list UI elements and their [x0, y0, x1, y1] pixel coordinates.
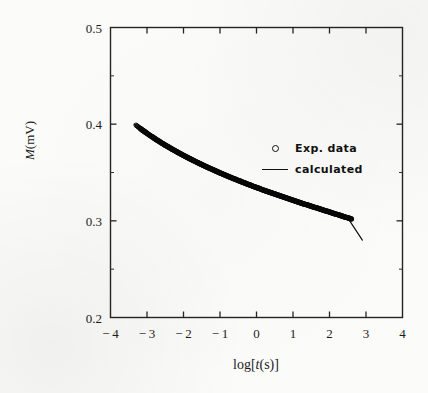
y-axis-label-symbol: M: [22, 149, 37, 160]
open-circle-marker-icon: [258, 145, 292, 152]
x-tick-label: − 4: [102, 327, 118, 340]
x-tick-label: − 1: [212, 327, 228, 340]
x-tick-label: − 3: [139, 327, 155, 340]
y-tick-label: 0.5: [68, 21, 102, 34]
x-tick-label: 4: [399, 327, 406, 340]
legend-item-calculated: calculated: [258, 159, 363, 180]
legend-label-exp-data: Exp. data: [292, 142, 357, 155]
y-tick-label: 0.2: [68, 311, 102, 324]
x-tick-label: − 2: [175, 327, 191, 340]
plot-legend: Exp. data calculated: [258, 138, 363, 180]
legend-label-calculated: calculated: [292, 163, 363, 176]
y-axis-label-unit: (mV): [22, 121, 37, 149]
x-tick-label: 1: [290, 327, 297, 340]
x-tick-label: 3: [363, 327, 370, 340]
solid-line-marker-icon: [258, 169, 292, 170]
x-axis-label: log[t(s)]: [233, 357, 279, 373]
legend-item-exp-data: Exp. data: [258, 138, 363, 159]
y-tick-label: 0.4: [68, 118, 102, 131]
x-axis-label-prefix: log[: [233, 357, 256, 372]
x-tick-label: 0: [253, 327, 260, 340]
y-axis-label: M(mV): [22, 121, 38, 160]
x-tick-label: 2: [326, 327, 333, 340]
x-axis-label-suffix: (s)]: [260, 357, 279, 372]
figure-scatter-plot: 0.50.40.30.2 − 4− 3− 2− 101234 M(mV) log…: [0, 0, 428, 393]
y-tick-label: 0.3: [68, 214, 102, 227]
